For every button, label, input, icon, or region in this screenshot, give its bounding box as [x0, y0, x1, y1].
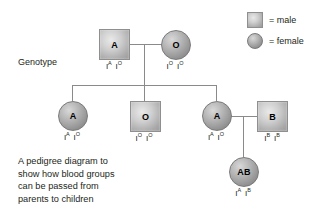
genotype-p2-child3: IA IO: [190, 133, 242, 142]
person-p2-child3[interactable]: A: [202, 101, 232, 131]
legend-item-female: = female: [247, 33, 304, 49]
person-label: AB: [237, 167, 250, 177]
legend-item-male: = male: [247, 12, 296, 28]
allele-1: IO: [167, 62, 174, 71]
genotype-axis-label: Genotype: [18, 57, 57, 67]
pedigree-diagram: = male = female Genotype A IA IO O IO IO…: [0, 0, 326, 221]
caption-line-1: A pedigree diagram to: [18, 155, 115, 168]
person-p1-mother[interactable]: O: [161, 30, 191, 60]
allele-2: IB: [245, 189, 251, 198]
allele-2: IO: [177, 62, 184, 71]
male-square-icon: [247, 12, 263, 28]
person-p2-spouse[interactable]: B: [257, 101, 288, 132]
person-p2-child2[interactable]: O: [130, 101, 161, 132]
sibling-drop-child2: [144, 85, 145, 101]
allele-1: IA: [64, 133, 70, 142]
allele-1: IO: [136, 134, 143, 143]
person-p3-child[interactable]: AB: [229, 157, 259, 187]
allele-1: IA: [235, 189, 241, 198]
allele-2: IO: [218, 133, 225, 142]
person-label: B: [269, 112, 276, 122]
caption-line-4: parents to children: [18, 193, 115, 206]
person-label: O: [142, 112, 149, 122]
genotype-p1-father: IA IO: [88, 62, 140, 71]
person-label: A: [111, 40, 118, 50]
descent-line-gen2: [243, 116, 244, 157]
genotype-p1-mother: IO IO: [149, 62, 201, 71]
legend-label-female: = female: [269, 36, 304, 46]
sibling-drop-child1: [72, 85, 73, 101]
person-label: A: [214, 111, 221, 121]
sibling-drop-child3: [216, 85, 217, 101]
female-circle-icon: [247, 33, 263, 49]
allele-2: IO: [74, 133, 81, 142]
person-label: A: [70, 111, 77, 121]
genotype-p2-spouse: IB IB: [246, 134, 298, 143]
caption-line-3: can be passed from: [18, 180, 115, 193]
allele-2: IB: [274, 134, 280, 143]
legend-label-male: = male: [269, 15, 296, 25]
person-p1-father[interactable]: A: [99, 29, 130, 60]
allele-1: IA: [106, 62, 112, 71]
genotype-p2-child2: IO IO: [118, 134, 170, 143]
caption-line-2: show how blood groups: [18, 168, 115, 181]
person-p2-child1[interactable]: A: [58, 101, 88, 131]
genotype-p3-child: IA IB: [217, 189, 269, 198]
genotype-p2-child1: IA IO: [46, 133, 98, 142]
allele-2: IO: [146, 134, 153, 143]
descent-line-gen1: [144, 44, 145, 85]
allele-1: IA: [208, 133, 214, 142]
allele-2: IO: [116, 62, 123, 71]
allele-1: IB: [264, 134, 270, 143]
person-label: O: [172, 40, 179, 50]
diagram-caption: A pedigree diagram to show how blood gro…: [18, 155, 115, 205]
